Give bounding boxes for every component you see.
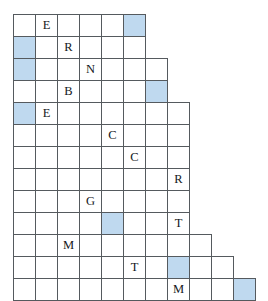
grid-cell[interactable] xyxy=(101,146,124,169)
grid-cell[interactable] xyxy=(79,124,102,147)
grid-cell[interactable]: R xyxy=(57,36,80,59)
grid-cell[interactable]: E xyxy=(35,14,58,37)
grid-cell-highlighted[interactable] xyxy=(13,102,36,125)
grid-cell[interactable] xyxy=(123,80,146,103)
grid-cell[interactable] xyxy=(13,256,36,279)
grid-cell[interactable] xyxy=(123,278,146,301)
grid-cell[interactable] xyxy=(145,146,168,169)
grid-cell[interactable] xyxy=(101,102,124,125)
grid-cell[interactable] xyxy=(123,124,146,147)
grid-cell[interactable] xyxy=(167,102,190,125)
grid-cell-highlighted[interactable] xyxy=(13,36,36,59)
grid-cell[interactable] xyxy=(101,14,124,37)
grid-cell[interactable] xyxy=(101,256,124,279)
grid-cell[interactable] xyxy=(13,146,36,169)
grid-cell[interactable] xyxy=(101,168,124,191)
grid-cell[interactable]: N xyxy=(79,58,102,81)
grid-cell[interactable]: B xyxy=(57,80,80,103)
grid-cell[interactable] xyxy=(35,190,58,213)
grid-cell[interactable] xyxy=(13,234,36,257)
grid-cell[interactable] xyxy=(189,256,212,279)
grid-cell[interactable]: M xyxy=(57,234,80,257)
grid-cell[interactable] xyxy=(167,124,190,147)
grid-cell[interactable] xyxy=(145,234,168,257)
grid-cell[interactable] xyxy=(35,58,58,81)
grid-cell-highlighted[interactable] xyxy=(167,256,190,279)
grid-cell[interactable]: T xyxy=(167,212,190,235)
grid-cell[interactable] xyxy=(189,234,212,257)
grid-cell[interactable] xyxy=(35,124,58,147)
grid-cell[interactable]: G xyxy=(79,190,102,213)
grid-cell[interactable] xyxy=(35,234,58,257)
grid-cell[interactable] xyxy=(101,190,124,213)
grid-cell[interactable] xyxy=(57,14,80,37)
grid-cell-highlighted[interactable] xyxy=(145,80,168,103)
grid-cell[interactable] xyxy=(145,256,168,279)
grid-cell[interactable] xyxy=(57,278,80,301)
grid-cell[interactable] xyxy=(145,124,168,147)
grid-cell[interactable] xyxy=(123,36,146,59)
grid-cell[interactable] xyxy=(13,212,36,235)
grid-cell[interactable] xyxy=(145,278,168,301)
grid-cell[interactable] xyxy=(35,256,58,279)
grid-cell[interactable] xyxy=(57,212,80,235)
grid-cell[interactable] xyxy=(57,190,80,213)
grid-cell[interactable] xyxy=(101,36,124,59)
grid-cell[interactable] xyxy=(57,102,80,125)
grid-cell[interactable]: C xyxy=(123,146,146,169)
grid-cell[interactable] xyxy=(101,80,124,103)
grid-cell[interactable] xyxy=(123,190,146,213)
grid-cell[interactable]: T xyxy=(123,256,146,279)
grid-cell[interactable] xyxy=(35,212,58,235)
grid-cell[interactable] xyxy=(79,146,102,169)
grid-cell[interactable] xyxy=(123,58,146,81)
grid-cell[interactable] xyxy=(189,278,212,301)
grid-cell[interactable] xyxy=(79,168,102,191)
grid-cell[interactable] xyxy=(211,256,234,279)
grid-cell[interactable] xyxy=(123,168,146,191)
grid-cell[interactable] xyxy=(211,278,234,301)
grid-cell[interactable] xyxy=(13,14,36,37)
grid-cell[interactable]: R xyxy=(167,168,190,191)
grid-cell[interactable] xyxy=(13,124,36,147)
grid-cell[interactable] xyxy=(123,234,146,257)
grid-cell[interactable] xyxy=(167,190,190,213)
grid-cell[interactable] xyxy=(35,168,58,191)
grid-cell[interactable] xyxy=(57,146,80,169)
grid-cell[interactable] xyxy=(13,80,36,103)
grid-cell[interactable] xyxy=(13,278,36,301)
grid-cell[interactable] xyxy=(79,234,102,257)
grid-cell[interactable] xyxy=(35,278,58,301)
grid-cell[interactable] xyxy=(13,168,36,191)
grid-cell[interactable] xyxy=(79,278,102,301)
grid-cell[interactable] xyxy=(145,168,168,191)
grid-cell[interactable]: E xyxy=(35,102,58,125)
grid-cell[interactable] xyxy=(167,146,190,169)
grid-cell[interactable] xyxy=(79,256,102,279)
grid-cell-highlighted[interactable] xyxy=(101,212,124,235)
grid-cell[interactable] xyxy=(79,14,102,37)
grid-cell[interactable]: M xyxy=(167,278,190,301)
grid-cell[interactable] xyxy=(79,212,102,235)
grid-cell[interactable] xyxy=(57,124,80,147)
grid-cell[interactable] xyxy=(35,80,58,103)
grid-cell[interactable] xyxy=(79,102,102,125)
grid-cell[interactable] xyxy=(101,278,124,301)
grid-cell-highlighted[interactable] xyxy=(123,14,146,37)
grid-cell[interactable] xyxy=(79,80,102,103)
grid-cell[interactable] xyxy=(35,146,58,169)
grid-cell[interactable] xyxy=(35,36,58,59)
grid-cell[interactable] xyxy=(13,190,36,213)
grid-cell[interactable] xyxy=(145,58,168,81)
grid-cell-highlighted[interactable] xyxy=(233,278,256,301)
grid-cell[interactable]: C xyxy=(101,124,124,147)
grid-cell[interactable] xyxy=(57,256,80,279)
grid-cell[interactable] xyxy=(145,212,168,235)
grid-cell[interactable] xyxy=(123,212,146,235)
grid-cell[interactable] xyxy=(79,36,102,59)
grid-cell-highlighted[interactable] xyxy=(13,58,36,81)
grid-cell[interactable] xyxy=(57,58,80,81)
grid-cell[interactable] xyxy=(123,102,146,125)
grid-cell[interactable] xyxy=(145,190,168,213)
grid-cell[interactable] xyxy=(101,58,124,81)
